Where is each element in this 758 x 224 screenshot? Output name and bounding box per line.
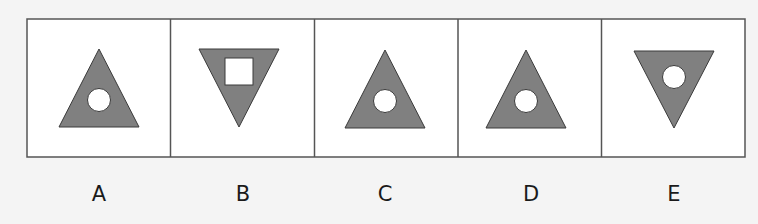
option-label-b: B (223, 182, 263, 206)
circle-hole-icon (663, 66, 686, 89)
circle-hole-icon (88, 89, 111, 112)
circle-hole-icon (374, 90, 397, 113)
option-label-d: D (511, 182, 551, 206)
option-label-e: E (654, 182, 694, 206)
option-label-c: C (365, 182, 405, 206)
option-label-a: A (79, 182, 119, 206)
circle-hole-icon (515, 90, 538, 113)
square-hole-icon (225, 58, 253, 85)
